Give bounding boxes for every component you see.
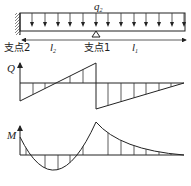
arrowhead-icon <box>68 22 72 27</box>
shear-hatch <box>33 70 171 106</box>
arrowhead-icon <box>170 22 174 27</box>
shear-diagram: Q <box>7 62 184 109</box>
shear-axis-label: Q <box>7 62 15 74</box>
arrowhead-icon <box>157 22 161 27</box>
arrowhead-icon <box>43 22 47 27</box>
fixed-support-2 <box>15 13 20 35</box>
moment-diagram: M <box>6 122 184 170</box>
span-l1-label: l1 <box>132 41 138 54</box>
arrowhead-icon <box>132 22 136 27</box>
arrowhead-icon <box>56 22 60 27</box>
load-label: q2 <box>94 0 103 13</box>
arrowhead-icon <box>94 22 98 27</box>
moment-axis-label: M <box>6 129 17 141</box>
triangle-support-icon <box>92 31 100 37</box>
distributed-load: q2 <box>20 0 186 31</box>
beam-diagram: q2 支点2 l2 支点1 l1 Q M <box>0 0 191 186</box>
support-2-label: 支点2 <box>4 42 30 53</box>
pin-support-1 <box>92 31 100 37</box>
arrowhead-icon <box>144 22 148 27</box>
span-l2-label: l2 <box>50 41 56 54</box>
arrowhead-icon <box>119 22 123 27</box>
moment-hatch <box>26 133 171 170</box>
support-1-label: 支点1 <box>84 42 110 53</box>
arrowhead-icon <box>81 22 85 27</box>
load-arrows <box>30 13 186 27</box>
arrowhead-icon <box>30 22 34 27</box>
wall-hatch <box>15 13 20 35</box>
arrowhead-icon <box>106 22 110 27</box>
